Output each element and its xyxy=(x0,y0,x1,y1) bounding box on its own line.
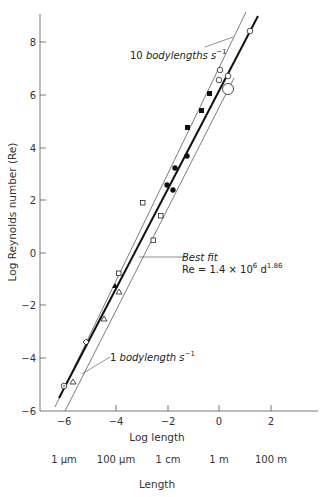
unit-label: 1 m xyxy=(209,454,228,465)
unit-label: 100 μm xyxy=(97,454,135,465)
dotted-circle-marker xyxy=(61,383,67,389)
y-tick-label: 6 xyxy=(30,90,36,101)
leader-ten xyxy=(205,37,233,47)
y-tick-labels: 8 6 4 2 0 −2 −4 −6 xyxy=(21,37,36,417)
x-tick-label: 0 xyxy=(216,416,222,427)
one-bodylength-label: 1 bodylength s−1 xyxy=(110,350,195,363)
reynolds-chart: 8 6 4 2 0 −2 −4 −6 −6 −4 −2 0 2 Log leng… xyxy=(0,0,326,497)
unit-label: 1 μm xyxy=(51,454,77,465)
leader-one xyxy=(82,357,110,374)
length-title: Length xyxy=(139,478,175,490)
y-tick-label: 8 xyxy=(30,37,36,48)
x-tick-label: −2 xyxy=(161,416,176,427)
x-axis-title: Log length xyxy=(129,431,185,443)
x-tick-label: 2 xyxy=(268,416,274,427)
x-tick-label: −4 xyxy=(109,416,124,427)
best-fit-label: Best fit xyxy=(182,252,219,263)
unit-label: 100 m xyxy=(255,454,287,465)
y-tick-label: 2 xyxy=(30,195,36,206)
y-axis-title: Log Reynolds number (Re) xyxy=(6,143,18,282)
length-unit-labels: 1 μm 100 μm 1 cm 1 m 100 m xyxy=(51,454,287,465)
x-ticks xyxy=(116,405,271,411)
y-tick-label: −2 xyxy=(21,300,36,311)
y-tick-label: 0 xyxy=(30,248,36,259)
ten-bodylengths-label: 10 bodylengths s−1 xyxy=(130,48,226,61)
best-fit-equation: Re = 1.4 × 106 d1.86 xyxy=(182,262,283,275)
x-tick-labels: −6 −4 −2 0 2 xyxy=(57,416,275,427)
large-open-circle-marker xyxy=(223,84,234,95)
y-tick-label: 4 xyxy=(30,143,36,154)
y-tick-label: −4 xyxy=(21,353,36,364)
y-ticks xyxy=(40,42,46,358)
unit-label: 1 cm xyxy=(156,454,181,465)
y-tick-label: −6 xyxy=(21,406,36,417)
open-triangle-markers xyxy=(70,289,122,384)
x-tick-label: −6 xyxy=(57,416,72,427)
